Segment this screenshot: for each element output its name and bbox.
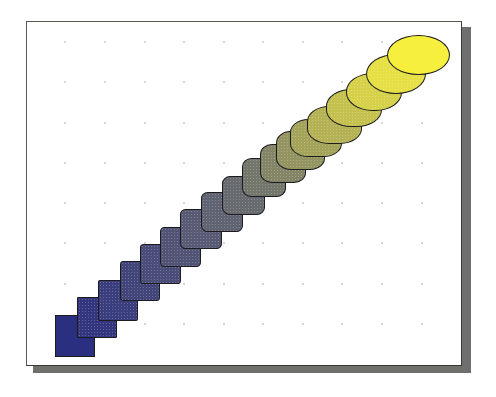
grid-dot xyxy=(302,41,304,43)
end-ellipse xyxy=(387,35,450,75)
grid-dot xyxy=(341,202,343,204)
grid-dot xyxy=(381,323,383,325)
grid-dot xyxy=(104,162,106,164)
grid-dot xyxy=(64,283,66,285)
grid-dot xyxy=(262,41,264,43)
grid-dot xyxy=(104,242,106,244)
grid-dot xyxy=(223,41,225,43)
grid-dot xyxy=(302,323,304,325)
grid-dot xyxy=(64,162,66,164)
blend-illustration: Blend: square to ellipse, blue to yellow xyxy=(0,0,496,397)
grid-dot xyxy=(223,81,225,83)
grid-dot xyxy=(223,162,225,164)
grid-dot xyxy=(341,323,343,325)
grid-dot xyxy=(144,81,146,83)
grid-dot xyxy=(144,323,146,325)
grid-dot xyxy=(64,122,66,124)
grid-dot xyxy=(341,283,343,285)
grid-dot xyxy=(183,41,185,43)
grid-dot xyxy=(262,122,264,124)
grid-dot xyxy=(183,283,185,285)
grid-dot xyxy=(381,122,383,124)
grid-dot xyxy=(183,323,185,325)
grid-dot xyxy=(183,202,185,204)
grid-dot xyxy=(223,242,225,244)
grid-dot xyxy=(262,323,264,325)
grid-dot xyxy=(104,202,106,204)
grid-dot xyxy=(64,202,66,204)
grid-dot xyxy=(223,323,225,325)
grid-dot xyxy=(144,202,146,204)
grid-dot xyxy=(64,81,66,83)
grid-dot xyxy=(341,81,343,83)
grid-dot xyxy=(421,122,423,124)
grid-dot xyxy=(262,283,264,285)
grid-dot xyxy=(421,242,423,244)
grid-dot xyxy=(144,122,146,124)
grid-dot xyxy=(381,242,383,244)
drawing-frame xyxy=(26,21,462,366)
grid-dot xyxy=(183,122,185,124)
grid-dot xyxy=(262,242,264,244)
grid-dot xyxy=(183,162,185,164)
grid-dot xyxy=(421,283,423,285)
grid-dot xyxy=(381,41,383,43)
grid-dot xyxy=(341,41,343,43)
grid-dot xyxy=(421,162,423,164)
grid-dot xyxy=(223,122,225,124)
grid-dot xyxy=(262,81,264,83)
grid-dot xyxy=(302,202,304,204)
grid-dot xyxy=(64,242,66,244)
grid-dot xyxy=(104,122,106,124)
grid-dot xyxy=(183,81,185,83)
grid-dot xyxy=(104,81,106,83)
grid-dot xyxy=(381,283,383,285)
grid-dot xyxy=(381,202,383,204)
grid-dot xyxy=(302,81,304,83)
grid-dot xyxy=(381,162,383,164)
grid-dot xyxy=(144,162,146,164)
grid-dot xyxy=(104,41,106,43)
grid-dot xyxy=(341,242,343,244)
grid-dot xyxy=(64,41,66,43)
grid-dot xyxy=(302,283,304,285)
grid-dot xyxy=(144,41,146,43)
grid-dot xyxy=(223,283,225,285)
grid-dot xyxy=(302,242,304,244)
grid-dot xyxy=(421,323,423,325)
grid-dot xyxy=(421,202,423,204)
grid-dot xyxy=(341,162,343,164)
